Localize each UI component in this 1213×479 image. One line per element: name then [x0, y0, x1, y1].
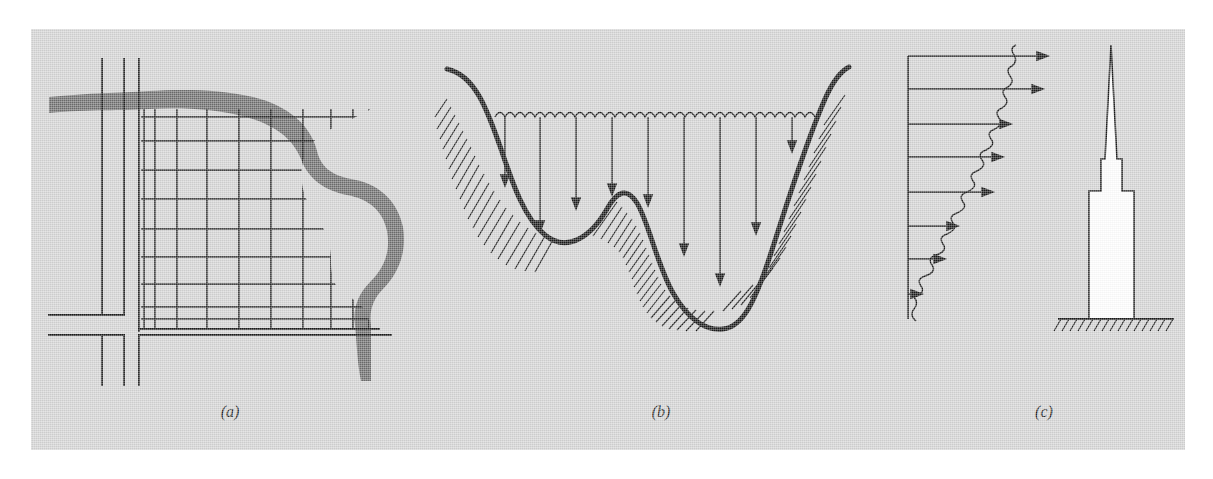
panel-c-drawing — [886, 29, 1186, 369]
sounding-arrows — [501, 117, 796, 285]
figure-root: Plan view of a finite-difference grid ov… — [0, 0, 1213, 479]
panel-c-title: Wind velocity profile acting on a tall b… — [886, 369, 887, 370]
ground-hatching — [1054, 319, 1173, 331]
wind-load-arrows — [908, 52, 1048, 298]
panel-b-drawing — [421, 39, 871, 369]
caption-b: (b) — [631, 403, 691, 421]
figure-background-panel: Plan view of a finite-difference grid ov… — [31, 29, 1185, 450]
sounding-arrow — [716, 117, 724, 285]
wind-load-arrow — [908, 52, 1048, 60]
building-silhouette — [1089, 45, 1134, 319]
wind-load-arrow — [908, 85, 1043, 93]
sounding-arrow — [572, 117, 580, 209]
finite-difference-grid — [139, 107, 373, 331]
sounding-arrow — [680, 117, 688, 255]
panel-a-drawing — [31, 29, 431, 409]
sounding-arrow — [752, 117, 760, 234]
water-surface-wavy-line — [495, 113, 815, 118]
wind-load-arrow — [908, 188, 993, 196]
bank-hatching-central — [593, 202, 714, 331]
sounding-arrow — [608, 117, 616, 195]
caption-c: (c) — [1014, 403, 1074, 421]
wind-load-arrow — [908, 255, 945, 263]
wind-load-arrow — [908, 120, 1011, 128]
panel-a-title: Plan view of a finite-difference grid ov… — [31, 409, 32, 410]
wind-load-arrow — [908, 290, 922, 298]
panel-c: Wind velocity profile acting on a tall b… — [886, 29, 1186, 369]
wind-load-arrow — [908, 222, 958, 230]
caption-a: (a) — [200, 403, 260, 421]
sounding-arrow — [644, 117, 652, 206]
panel-b: Cross-section of a lake showing sounding… — [421, 39, 871, 369]
panel-a: Plan view of a finite-difference grid ov… — [31, 29, 431, 409]
wind-velocity-profile-curve — [912, 45, 1016, 321]
wind-load-arrow — [908, 153, 1003, 161]
bank-hatching-right — [723, 95, 845, 311]
sounding-arrow — [788, 117, 796, 152]
sounding-arrow — [536, 117, 544, 232]
